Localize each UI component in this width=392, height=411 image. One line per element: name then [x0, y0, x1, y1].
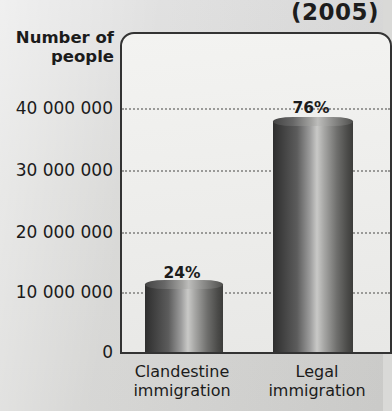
- y-axis-caption: Number of people: [4, 28, 114, 67]
- bar-body-clandestine: [145, 284, 223, 352]
- y-tick-label-30000000: 30 000 000: [0, 160, 113, 180]
- chart-title: (2005): [291, 0, 379, 25]
- bar-body-legal: [273, 121, 353, 352]
- data-label-legal: 76%: [271, 99, 351, 117]
- y-tick-label-10000000: 10 000 000: [0, 282, 113, 302]
- y-axis-caption-line-2: people: [4, 47, 114, 66]
- x-category-clandestine-line-1: Clandestine: [112, 362, 252, 381]
- x-category-legal-line-2: immigration: [251, 381, 383, 400]
- y-tick-label-20000000: 20 000 000: [0, 222, 113, 242]
- y-tick-label-40000000: 40 000 000: [0, 98, 113, 118]
- bar-top-ellipse-legal: [273, 117, 353, 126]
- data-label-clandestine: 24%: [143, 264, 221, 282]
- x-category-label-clandestine: Clandestine immigration: [112, 362, 252, 400]
- plot-inner: [122, 34, 390, 352]
- y-axis-caption-line-1: Number of: [4, 28, 114, 47]
- bar-legal-immigration[interactable]: [273, 117, 353, 352]
- x-category-legal-line-1: Legal: [251, 362, 383, 381]
- plot-area: [120, 32, 392, 354]
- bar-clandestine-immigration[interactable]: [145, 280, 223, 352]
- y-tick-label-0: 0: [0, 342, 113, 362]
- x-category-label-legal: Legal immigration: [251, 362, 383, 400]
- x-category-clandestine-line-2: immigration: [112, 381, 252, 400]
